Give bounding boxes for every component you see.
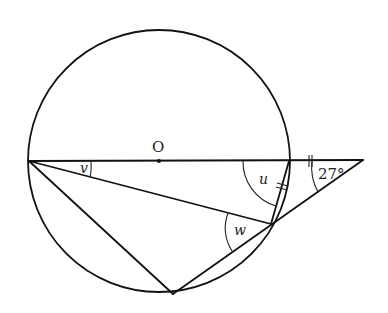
angle-w-label: w [234,222,246,238]
angle-u-label: u [259,171,268,187]
angle-v-label: v [80,160,88,176]
chord-a-c [29,161,173,294]
angle-w-arc [225,213,232,251]
given-angle-label: 27° [318,165,345,183]
center-label: O [152,138,164,156]
geometry-diagram: O v u w 27° [0,0,388,313]
angle-v-arc [90,161,91,177]
center-point [157,159,161,163]
chord-a-t [29,161,271,224]
